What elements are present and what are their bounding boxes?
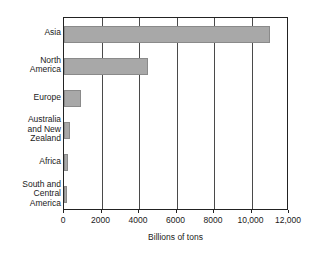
plot-area xyxy=(63,17,288,210)
x-axis-tick-labels: 0200040006000800010,00012,000 xyxy=(0,215,311,229)
y-axis-category-label: North America xyxy=(0,56,61,75)
bar-chart-figure: AsiaNorth AmericaEuropeAustralia and New… xyxy=(0,0,311,258)
bar xyxy=(64,26,270,43)
bar xyxy=(64,154,68,171)
x-axis-tick-mark xyxy=(138,210,139,213)
x-axis-tick-mark xyxy=(101,210,102,213)
x-axis-tick-mark xyxy=(176,210,177,213)
x-axis-tick-label: 4000 xyxy=(129,215,148,226)
x-axis-tick-label: 2000 xyxy=(91,215,110,226)
y-axis-category-label: Australia and New Zealand xyxy=(0,115,61,144)
y-axis-category-labels: AsiaNorth AmericaEuropeAustralia and New… xyxy=(0,17,61,210)
x-axis-tick-label: 8000 xyxy=(204,215,223,226)
x-axis-tick-label: 10,000 xyxy=(238,215,264,226)
y-axis-category-label: Europe xyxy=(0,93,61,103)
x-axis-tick-label: 6000 xyxy=(166,215,185,226)
x-axis-tick-mark xyxy=(288,210,289,213)
bar xyxy=(64,58,148,75)
bars-layer xyxy=(64,18,287,209)
y-axis-category-label: South and Central America xyxy=(0,180,61,209)
x-axis-tick-mark xyxy=(213,210,214,213)
x-axis-title: Billions of tons xyxy=(63,232,288,242)
bar xyxy=(64,122,70,139)
x-axis-tick-label: 0 xyxy=(61,215,66,226)
x-axis-tick-mark xyxy=(251,210,252,213)
x-axis-tick-mark xyxy=(63,210,64,213)
bar xyxy=(64,186,67,203)
x-axis-tick-label: 12,000 xyxy=(275,215,301,226)
bar xyxy=(64,90,81,107)
y-axis-category-label: Africa xyxy=(0,157,61,167)
y-axis-category-label: Asia xyxy=(0,28,61,38)
